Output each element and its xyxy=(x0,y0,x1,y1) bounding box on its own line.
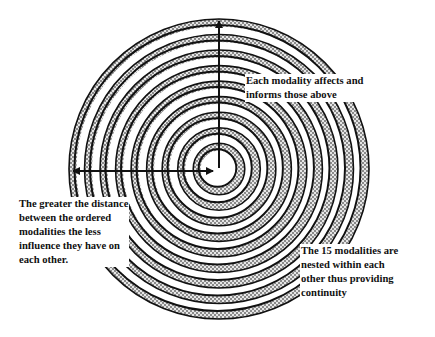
label-modality-affects: Each modality affects and informs those … xyxy=(245,74,364,102)
ring-line xyxy=(199,149,237,187)
label-distance-influence: The greater the distance between the ord… xyxy=(18,197,129,267)
label-nested-continuity: The 15 modalities are nested within each… xyxy=(300,244,399,300)
ring-line xyxy=(152,103,283,234)
